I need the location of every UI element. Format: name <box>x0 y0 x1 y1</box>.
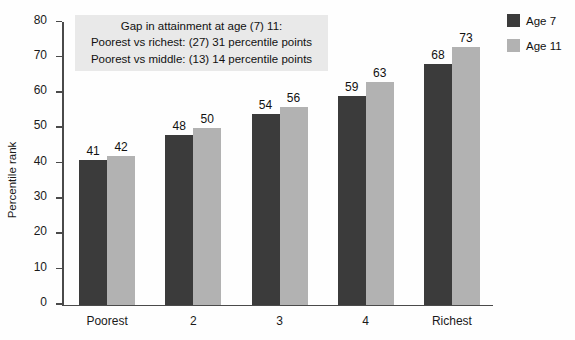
legend-swatch-age-7 <box>507 14 520 27</box>
x-tick-label-richest: Richest <box>432 314 472 328</box>
bar-4-age-7[interactable]: 59 <box>338 96 366 304</box>
bar-3-age-7[interactable]: 54 <box>252 114 280 305</box>
annotation-box: Gap in attainment at age (7) 11: Poorest… <box>75 15 328 71</box>
y-tick-60: 60 <box>56 91 62 93</box>
bar-value-label: 73 <box>459 31 472 45</box>
x-tick-label-2: 2 <box>190 314 197 328</box>
y-tick-label-50: 50 <box>34 118 47 132</box>
y-axis-line <box>62 22 64 306</box>
bar-2-age-11[interactable]: 50 <box>193 128 221 305</box>
y-tick-label-30: 30 <box>34 189 47 203</box>
y-tick-label-0: 0 <box>40 295 47 309</box>
bar-chart: Percentile rank 01020304050607080 4142Po… <box>0 0 575 340</box>
y-tick-0: 0 <box>56 303 62 305</box>
y-tick-label-70: 70 <box>34 48 47 62</box>
bar-value-label: 59 <box>345 80 358 94</box>
legend: Age 7 Age 11 <box>507 14 562 64</box>
annotation-line-2: Poorest vs richest: (27) 31 percentile p… <box>75 34 328 50</box>
bar-value-label: 63 <box>373 66 386 80</box>
legend-item-age-7[interactable]: Age 7 <box>507 14 562 27</box>
y-tick-10: 10 <box>56 268 62 270</box>
annotation-line-3: Poorest vs middle: (13) 14 percentile po… <box>75 51 328 67</box>
bar-value-label: 42 <box>114 140 127 154</box>
legend-item-age-11[interactable]: Age 11 <box>507 39 562 52</box>
bar-richest-age-11[interactable]: 73 <box>452 47 480 305</box>
legend-label-age-11: Age 11 <box>526 40 562 52</box>
x-axis-line <box>62 305 493 307</box>
y-axis-title: Percentile rank <box>6 120 18 240</box>
legend-label-age-7: Age 7 <box>526 15 556 27</box>
x-tick-label-3: 3 <box>276 314 283 328</box>
bar-poorest-age-11[interactable]: 42 <box>107 156 135 304</box>
bar-group-4: 59634 <box>338 23 394 305</box>
y-tick-30: 30 <box>56 197 62 199</box>
bar-2-age-7[interactable]: 48 <box>165 135 193 305</box>
y-tick-label-20: 20 <box>34 224 47 238</box>
bar-value-label: 68 <box>431 48 444 62</box>
bar-poorest-age-7[interactable]: 41 <box>79 160 107 305</box>
y-tick-40: 40 <box>56 162 62 164</box>
y-tick-label-80: 80 <box>34 13 47 27</box>
bar-group-richest: 6873Richest <box>424 23 480 305</box>
bar-value-label: 54 <box>259 98 272 112</box>
bar-value-label: 48 <box>173 119 186 133</box>
y-tick-70: 70 <box>56 56 62 58</box>
y-tick-20: 20 <box>56 232 62 234</box>
bar-richest-age-7[interactable]: 68 <box>424 64 452 304</box>
bar-4-age-11[interactable]: 63 <box>366 82 394 304</box>
x-tick-label-poorest: Poorest <box>86 314 127 328</box>
bar-value-label: 56 <box>287 91 300 105</box>
bar-3-age-11[interactable]: 56 <box>280 107 308 305</box>
legend-swatch-age-11 <box>507 39 520 52</box>
y-tick-80: 80 <box>56 21 62 23</box>
bar-value-label: 41 <box>86 144 99 158</box>
y-tick-50: 50 <box>56 126 62 128</box>
y-tick-label-40: 40 <box>34 154 47 168</box>
x-tick-label-4: 4 <box>362 314 369 328</box>
annotation-line-1: Gap in attainment at age (7) 11: <box>75 18 328 34</box>
y-tick-label-10: 10 <box>34 260 47 274</box>
y-tick-label-60: 60 <box>34 83 47 97</box>
bar-value-label: 50 <box>201 112 214 126</box>
